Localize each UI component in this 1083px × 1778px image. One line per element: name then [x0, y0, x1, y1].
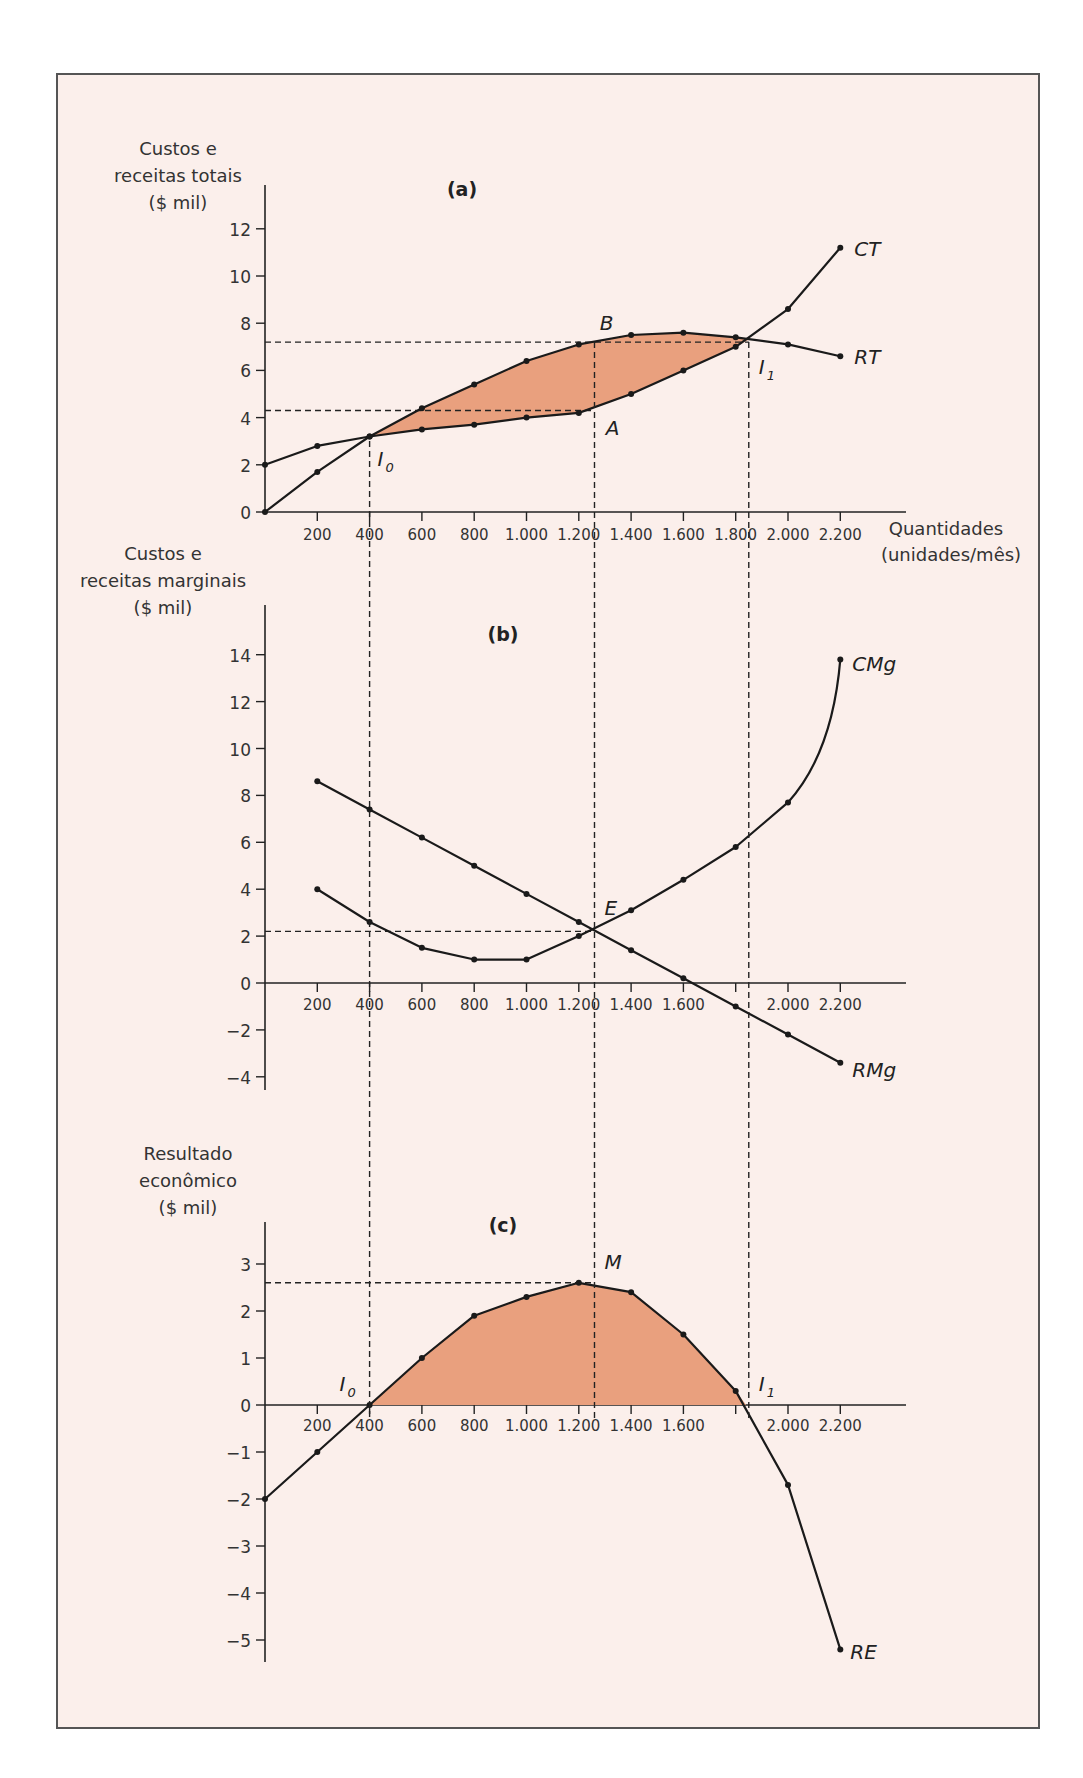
x-axis-title: Quantidades	[889, 518, 1003, 539]
x-tick-label: 800	[460, 526, 489, 544]
panel-b: Custos ereceitas marginais($ mil)(b)−4−2…	[80, 543, 906, 1090]
panel-a: Custos ereceitas totais($ mil)(a)0246810…	[114, 138, 1021, 565]
panel-label: (b)	[488, 623, 519, 645]
y-tick-label: −4	[226, 1068, 251, 1088]
x-tick-label: 200	[303, 996, 332, 1014]
x-tick-label: 2.000	[767, 1417, 810, 1435]
x-tick-label: 1.400	[610, 526, 653, 544]
y-tick-label: 14	[229, 646, 251, 666]
y-tick-label: 10	[229, 740, 251, 760]
x-tick-label: 400	[355, 1417, 384, 1435]
vertical-guides	[370, 342, 749, 1420]
x-tick-label: 1.000	[505, 996, 548, 1014]
panel-c: Resultadoeconômico($ mil)(c)−5−4−3−2−101…	[139, 1143, 906, 1664]
x-tick-label: 1.600	[662, 526, 705, 544]
y-axis-title: receitas marginais	[80, 570, 246, 591]
panel-label: (c)	[489, 1214, 518, 1236]
y-tick-label: 0	[240, 503, 251, 523]
economic-charts: Custos ereceitas totais($ mil)(a)0246810…	[0, 0, 1083, 1778]
y-tick-label: 2	[240, 927, 251, 947]
svg-text:1: 1	[767, 1385, 775, 1400]
x-tick-label: 1.000	[505, 526, 548, 544]
x-tick-label: 200	[303, 526, 332, 544]
y-tick-label: −4	[226, 1584, 251, 1604]
x-tick-label: 2.000	[767, 526, 810, 544]
x-tick-label: 600	[408, 1417, 437, 1435]
point-b: B	[600, 311, 614, 335]
y-axis-title: Resultado	[143, 1143, 232, 1164]
curve-cmg	[317, 659, 840, 959]
y-tick-label: −1	[226, 1443, 251, 1463]
y-axis-title: receitas totais	[114, 165, 242, 186]
point-i0: I	[340, 1372, 346, 1396]
x-tick-label: 800	[460, 996, 489, 1014]
x-tick-label: 1.800	[714, 526, 757, 544]
rt-label: RT	[854, 345, 882, 369]
y-tick-label: 2	[240, 1302, 251, 1322]
point-a: A	[604, 416, 620, 440]
x-tick-label: 200	[303, 1417, 332, 1435]
point-i1: I	[759, 1372, 765, 1396]
y-axis-title: Custos e	[139, 138, 217, 159]
rmg-label: RMg	[852, 1058, 896, 1082]
y-axis-title: Custos e	[124, 543, 202, 564]
y-tick-label: 12	[229, 693, 251, 713]
y-tick-label: 6	[240, 833, 251, 853]
y-tick-label: 1	[240, 1349, 251, 1369]
x-axis-unit: (unidades/mês)	[881, 544, 1021, 565]
y-tick-label: 0	[240, 974, 251, 994]
y-tick-label: −2	[226, 1021, 251, 1041]
y-tick-label: 8	[240, 786, 251, 806]
y-tick-label: 4	[240, 409, 251, 429]
ct-label: CT	[854, 237, 882, 261]
y-tick-label: 10	[229, 267, 251, 287]
profit-area	[370, 1283, 747, 1405]
x-tick-label: 1.600	[662, 1417, 705, 1435]
x-tick-label: 2.200	[819, 996, 862, 1014]
y-axis-title: ($ mil)	[134, 597, 193, 618]
point-i0: I	[378, 447, 384, 471]
svg-text:0: 0	[386, 460, 394, 475]
y-tick-label: −2	[226, 1490, 251, 1510]
x-tick-label: 1.200	[557, 1417, 600, 1435]
x-tick-label: 2.200	[819, 1417, 862, 1435]
y-axis-title: econômico	[139, 1170, 237, 1191]
y-axis-title: ($ mil)	[149, 192, 208, 213]
y-tick-label: 12	[229, 220, 251, 240]
cmg-label: CMg	[852, 652, 896, 676]
x-tick-label: 2.000	[767, 996, 810, 1014]
y-tick-label: 3	[240, 1255, 251, 1275]
y-tick-label: 2	[240, 456, 251, 476]
point-m: M	[604, 1250, 621, 1274]
svg-text:0: 0	[348, 1385, 356, 1400]
point-e: E	[604, 896, 617, 920]
y-tick-label: 6	[240, 361, 251, 381]
y-tick-label: 0	[240, 1396, 251, 1416]
x-tick-label: 1.400	[610, 996, 653, 1014]
x-tick-label: 800	[460, 1417, 489, 1435]
x-tick-label: 600	[408, 996, 437, 1014]
y-tick-label: 8	[240, 314, 251, 334]
x-tick-label: 1.400	[610, 1417, 653, 1435]
svg-text:1: 1	[767, 368, 775, 383]
x-tick-label: 600	[408, 526, 437, 544]
x-tick-label: 1.600	[662, 996, 705, 1014]
point-i1: I	[759, 355, 765, 379]
y-tick-label: −5	[226, 1631, 251, 1651]
y-tick-label: 4	[240, 880, 251, 900]
y-tick-label: −3	[226, 1537, 251, 1557]
x-tick-label: 2.200	[819, 526, 862, 544]
y-axis-title: ($ mil)	[159, 1197, 218, 1218]
panel-label: (a)	[447, 178, 477, 200]
x-tick-label: 1.000	[505, 1417, 548, 1435]
re-label: RE	[850, 1640, 877, 1664]
profit-area	[370, 333, 749, 437]
